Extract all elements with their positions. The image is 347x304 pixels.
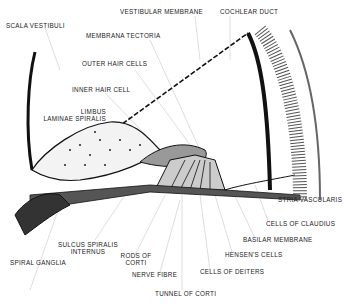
spiral-ganglion	[15, 194, 70, 235]
leader-membrana-tectoria	[150, 40, 200, 150]
label-scala-vestibuli: SCALA VESTIBULI	[6, 22, 65, 29]
leader-deiters	[200, 195, 210, 270]
label-sulcus-spiralis: SULCUS SPIRALIS INTERNUS	[56, 241, 120, 255]
leader-vestibular-membrane	[195, 16, 200, 60]
label-hensens-cells: HENSEN'S CELLS	[225, 251, 283, 258]
leader-claudius	[255, 185, 268, 221]
outer-wall	[290, 30, 320, 200]
label-cells-of-claudius: CELLS OF CLAUDIUS	[266, 220, 335, 227]
label-sulcus-line2: INTERNUS	[56, 248, 120, 255]
label-limbus-line1: LIMBUS	[40, 108, 106, 115]
label-outer-hair-cells: OUTER HAIR CELLS	[82, 60, 147, 67]
label-rods-line2: CORTI	[118, 259, 154, 266]
leader-sulcus	[95, 195, 125, 240]
label-inner-hair-cell: INNER HAIR CELL	[72, 86, 130, 93]
limbus	[32, 122, 160, 181]
label-cochlear-duct: COCHLEAR DUCT	[220, 8, 278, 15]
left-wall	[28, 52, 35, 170]
label-membrana-tectoria: MEMBRANA TECTORIA	[86, 32, 161, 39]
label-nerve-fibre: NERVE FIBRE	[132, 271, 177, 278]
label-limbus-line2: LAMINAE SPIRALIS	[40, 115, 106, 122]
label-vestibular-membrane: VESTIBULAR MEMBRANE	[120, 8, 203, 15]
label-spiral-ganglia: SPIRAL GANGLIA	[10, 259, 66, 266]
label-sulcus-line1: SULCUS SPIRALIS	[56, 241, 120, 248]
label-rods-line1: RODS OF	[118, 252, 154, 259]
leader-nerve-fibre	[160, 200, 180, 272]
osseous-spiral-lamina	[30, 185, 300, 210]
claudius-cells	[225, 175, 295, 190]
label-rods-of-corti: RODS OF CORTI	[118, 252, 154, 266]
leader-hensen	[215, 195, 232, 252]
leader-scala-vestibuli	[45, 28, 60, 70]
label-cells-of-deiters: CELLS OF DEITERS	[200, 268, 264, 275]
label-stria-vascularis: STRIA VASCULARIS	[278, 196, 342, 203]
label-tunnel-of-corti: TUNNEL OF CORTI	[155, 290, 216, 297]
organ-of-corti-diagram: SCALA VESTIBULI VESTIBULAR MEMBRANE COCH…	[0, 0, 347, 304]
label-limbus: LIMBUS LAMINAE SPIRALIS	[40, 108, 106, 122]
leader-rods	[135, 195, 165, 255]
stria-wall	[248, 33, 270, 190]
label-basilar-membrane: BASILAR MEMBRANE	[243, 236, 313, 243]
